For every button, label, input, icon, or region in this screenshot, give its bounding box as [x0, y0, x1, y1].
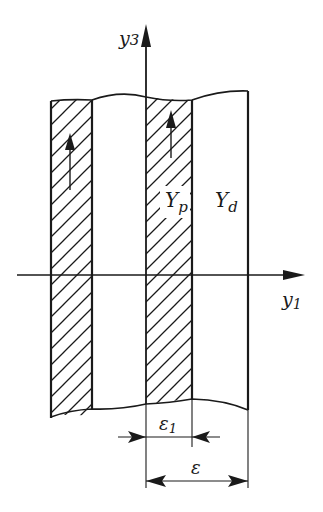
epsilon-label: ε	[191, 457, 201, 478]
epsilon1-label: ε1	[159, 413, 177, 436]
y1-label: y1	[281, 288, 302, 312]
dielectric-region-label: Yd	[215, 188, 238, 216]
axis-arrow-icon	[141, 24, 151, 47]
axis-arrow-icon	[283, 270, 305, 280]
center-piezo-layer	[146, 97, 192, 404]
layered-medium-diagram: y3 y1 Yp Yd ε1 ε	[0, 0, 323, 512]
y3-axis: y3	[118, 24, 151, 404]
left-piezo-layer	[51, 100, 92, 418]
y3-label: y3	[118, 27, 139, 49]
dimension-epsilon1: ε1	[118, 399, 220, 488]
